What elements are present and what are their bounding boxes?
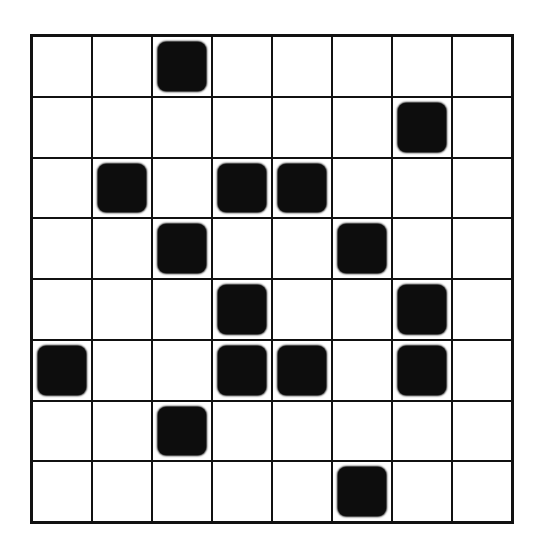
filled-square bbox=[158, 42, 206, 91]
grid-cell-r1-c1 bbox=[93, 98, 151, 157]
grid-cell-r5-c1 bbox=[93, 341, 151, 400]
grid-cell-r5-c5 bbox=[333, 341, 391, 400]
grid-cell-r1-c5 bbox=[333, 98, 391, 157]
grid-cell-r0-c5 bbox=[333, 37, 391, 96]
filled-square bbox=[278, 346, 326, 395]
grid-cell-r2-c4 bbox=[273, 159, 331, 218]
grid-cell-r0-c0 bbox=[33, 37, 91, 96]
grid-cell-r2-c5 bbox=[333, 159, 391, 218]
filled-square bbox=[278, 164, 326, 213]
grid-cell-r5-c0 bbox=[33, 341, 91, 400]
grid-cell-r4-c3 bbox=[213, 280, 271, 339]
grid-cell-r7-c0 bbox=[33, 462, 91, 521]
grid-cell-r7-c6 bbox=[393, 462, 451, 521]
grid-cell-r4-c5 bbox=[333, 280, 391, 339]
filled-square bbox=[398, 103, 446, 152]
grid-cell-r7-c3 bbox=[213, 462, 271, 521]
grid-cell-r6-c7 bbox=[453, 402, 511, 461]
grid-cell-r2-c1 bbox=[93, 159, 151, 218]
grid-cell-r0-c2 bbox=[153, 37, 211, 96]
grid-cell-r1-c3 bbox=[213, 98, 271, 157]
grid-cell-r4-c4 bbox=[273, 280, 331, 339]
grid-cell-r6-c4 bbox=[273, 402, 331, 461]
grid-cell-r5-c4 bbox=[273, 341, 331, 400]
grid-cell-r6-c3 bbox=[213, 402, 271, 461]
filled-square bbox=[398, 346, 446, 395]
grid-cell-r3-c1 bbox=[93, 219, 151, 278]
grid-cell-r7-c2 bbox=[153, 462, 211, 521]
grid-cell-r4-c7 bbox=[453, 280, 511, 339]
grid-cell-r2-c6 bbox=[393, 159, 451, 218]
grid-cell-r2-c2 bbox=[153, 159, 211, 218]
filled-square bbox=[338, 224, 386, 273]
grid-cell-r3-c7 bbox=[453, 219, 511, 278]
grid-cell-r2-c0 bbox=[33, 159, 91, 218]
grid-cell-r0-c1 bbox=[93, 37, 151, 96]
grid-cell-r1-c4 bbox=[273, 98, 331, 157]
grid-cell-r6-c5 bbox=[333, 402, 391, 461]
grid-cell-r7-c7 bbox=[453, 462, 511, 521]
grid-cell-r6-c0 bbox=[33, 402, 91, 461]
filled-square bbox=[218, 164, 266, 213]
grid-cell-r4-c6 bbox=[393, 280, 451, 339]
grid-cell-r2-c7 bbox=[453, 159, 511, 218]
grid-cell-r3-c6 bbox=[393, 219, 451, 278]
grid-cell-r5-c6 bbox=[393, 341, 451, 400]
filled-square bbox=[218, 285, 266, 334]
grid-cell-r0-c4 bbox=[273, 37, 331, 96]
grid-cell-r3-c4 bbox=[273, 219, 331, 278]
grid-cell-r0-c6 bbox=[393, 37, 451, 96]
grid-cell-r4-c1 bbox=[93, 280, 151, 339]
grid-cell-r3-c3 bbox=[213, 219, 271, 278]
grid-cell-r6-c6 bbox=[393, 402, 451, 461]
filled-square bbox=[38, 346, 86, 395]
grid-cell-r6-c1 bbox=[93, 402, 151, 461]
grid-cell-r6-c2 bbox=[153, 402, 211, 461]
grid-cell-r3-c2 bbox=[153, 219, 211, 278]
grid-cell-r4-c0 bbox=[33, 280, 91, 339]
filled-square bbox=[98, 164, 146, 213]
grid-cell-r3-c5 bbox=[333, 219, 391, 278]
filled-square bbox=[218, 346, 266, 395]
grid-cell-r4-c2 bbox=[153, 280, 211, 339]
grid-cell-r0-c3 bbox=[213, 37, 271, 96]
grid-cell-r7-c4 bbox=[273, 462, 331, 521]
grid-cell-r3-c0 bbox=[33, 219, 91, 278]
grid-cell-r5-c2 bbox=[153, 341, 211, 400]
grid-cell-r5-c7 bbox=[453, 341, 511, 400]
grid-cell-r7-c5 bbox=[333, 462, 391, 521]
filled-square bbox=[158, 407, 206, 456]
grid-board bbox=[30, 34, 514, 524]
grid-cell-r0-c7 bbox=[453, 37, 511, 96]
filled-square bbox=[398, 285, 446, 334]
grid-cell-r2-c3 bbox=[213, 159, 271, 218]
filled-square bbox=[158, 224, 206, 273]
grid-cell-r1-c6 bbox=[393, 98, 451, 157]
filled-square bbox=[338, 467, 386, 516]
grid-cell-r1-c7 bbox=[453, 98, 511, 157]
grid-cell-r1-c0 bbox=[33, 98, 91, 157]
grid-cell-r7-c1 bbox=[93, 462, 151, 521]
grid-cell-r5-c3 bbox=[213, 341, 271, 400]
grid-cell-r1-c2 bbox=[153, 98, 211, 157]
